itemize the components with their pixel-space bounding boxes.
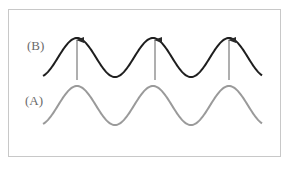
- peak-arrows: [77, 40, 229, 80]
- waves-diagram: [0, 0, 295, 171]
- wave-a: [43, 86, 262, 125]
